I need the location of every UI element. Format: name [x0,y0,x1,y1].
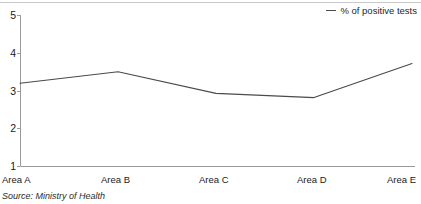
line-chart: % of positive tests 5 4 3 2 1 Area A Are… [0,0,421,204]
x-tick-label-area-d: Area D [297,174,327,185]
y-tick-label-5: 5 [2,10,16,21]
y-tick-label-2: 2 [2,123,16,134]
y-axis-ticks [17,16,21,167]
x-tick-label-area-a: Area A [2,174,31,185]
y-tick-label-4: 4 [2,48,16,59]
y-tick-label-3: 3 [2,86,16,97]
x-tick-label-area-b: Area B [101,174,130,185]
series-line-percent-positive-tests [20,64,412,98]
source-note: Source: Ministry of Health [2,191,105,201]
x-tick-label-area-e: Area E [387,174,416,185]
x-tick-label-area-c: Area C [199,174,229,185]
y-tick-label-1: 1 [2,161,16,172]
